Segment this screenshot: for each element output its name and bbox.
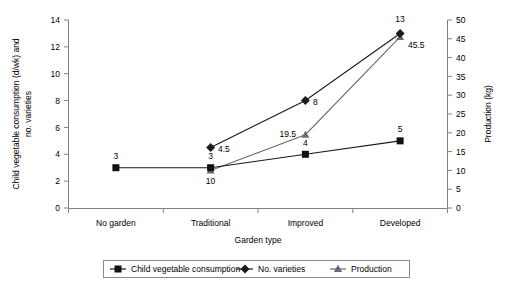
no-varieties-line <box>211 33 401 147</box>
legend-label-0: Child vegetable consumption <box>131 264 240 274</box>
right-tick-label-50: 50 <box>456 15 466 25</box>
label-consumption-1: 3 <box>208 151 213 161</box>
x-category-label-3: Developed <box>380 218 421 228</box>
legend-label-1: No. varieties <box>258 264 305 274</box>
right-axis-title: Production (kg) <box>483 85 493 143</box>
no-varieties-marker-3 <box>396 29 405 38</box>
x-category-label-2: Improved <box>288 218 324 228</box>
x-category-label-1: Traditional <box>191 218 230 228</box>
label-no-varieties-3: 13 <box>395 14 405 24</box>
left-tick-label-12: 12 <box>51 42 61 52</box>
label-production-3: 45.5 <box>408 40 425 50</box>
legend-label-2: Production <box>351 264 392 274</box>
left-tick-label-8: 8 <box>55 96 60 106</box>
left-tick-label-4: 4 <box>55 149 60 159</box>
series-child-vegetable-consumption <box>112 137 403 171</box>
right-tick-label-10: 10 <box>456 166 466 176</box>
right-y-axis: 50 45 40 35 30 25 20 15 10 5 0 Productio… <box>448 15 494 213</box>
data-point-labels: 3 3 4 5 4.5 8 13 10 19.5 45.5 <box>114 14 425 186</box>
left-tick-label-14: 14 <box>51 15 61 25</box>
line-chart-svg: 14 12 10 8 6 4 2 0 Child vegetable consu… <box>0 0 506 290</box>
x-category-label-0: No garden <box>96 218 136 228</box>
left-y-axis: 14 12 10 8 6 4 2 0 Child vegetable consu… <box>11 15 69 213</box>
right-tick-label-0: 0 <box>456 203 461 213</box>
label-no-varieties-1: 4.5 <box>218 144 230 154</box>
left-tick-label-6: 6 <box>55 123 60 133</box>
right-tick-label-30: 30 <box>456 90 466 100</box>
consumption-marker-3 <box>397 137 404 144</box>
left-tick-label-2: 2 <box>55 176 60 186</box>
label-production-2: 19.5 <box>279 129 296 139</box>
consumption-marker-1 <box>207 164 214 171</box>
left-tick-label-0: 0 <box>55 203 60 213</box>
left-axis-title-line1: Child vegetable consumption (d/wk) and <box>11 38 21 189</box>
label-production-1: 10 <box>206 176 216 186</box>
consumption-line <box>116 141 400 168</box>
label-consumption-0: 3 <box>114 151 119 161</box>
right-tick-label-15: 15 <box>456 147 466 157</box>
label-consumption-3: 5 <box>398 124 403 134</box>
consumption-marker-2 <box>302 151 309 158</box>
label-no-varieties-2: 8 <box>313 97 318 107</box>
right-tick-label-45: 45 <box>456 34 466 44</box>
chart-legend: Child vegetable consumption No. varietie… <box>104 261 410 278</box>
right-tick-label-35: 35 <box>456 72 466 82</box>
consumption-marker-0 <box>112 164 119 171</box>
left-tick-label-10: 10 <box>51 69 61 79</box>
left-axis-title-line2: no. varieties <box>23 91 33 137</box>
no-varieties-marker-2 <box>301 96 310 105</box>
right-tick-label-40: 40 <box>456 53 466 63</box>
label-consumption-2: 4 <box>303 138 308 148</box>
right-tick-label-20: 20 <box>456 128 466 138</box>
right-tick-label-5: 5 <box>456 184 461 194</box>
x-axis-title: Garden type <box>235 235 282 245</box>
right-tick-label-25: 25 <box>456 109 466 119</box>
x-axis: No garden Traditional Improved Developed… <box>69 209 448 246</box>
chart-figure: 14 12 10 8 6 4 2 0 Child vegetable consu… <box>0 0 506 290</box>
square-marker-icon <box>115 266 122 273</box>
